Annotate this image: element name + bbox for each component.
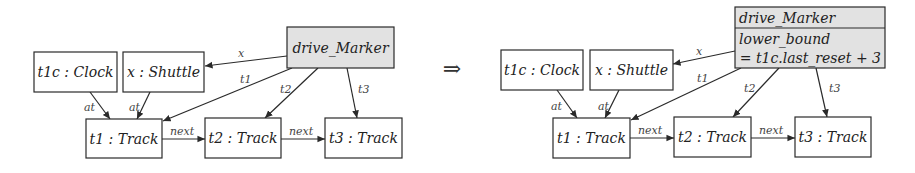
edge-arrow-icon [816, 68, 827, 117]
edge-next: next [281, 125, 325, 139]
node-label: t2 : Track [209, 130, 278, 146]
edge-at: at [84, 92, 110, 119]
node-t2: t2 : Track [205, 118, 281, 158]
edge-t3: t3 [816, 68, 840, 117]
edge-label: t2 [744, 82, 755, 95]
edge-next: next [751, 124, 795, 138]
edge-next: next [630, 124, 674, 138]
edge-label: next [638, 124, 663, 137]
node-label: t2 : Track [678, 129, 747, 145]
edge-label: t2 [280, 83, 291, 96]
node-x: x : Shuttle [590, 50, 673, 90]
edge-label: next [170, 125, 195, 138]
edge-label: at [129, 101, 141, 114]
edge-arrow-icon [673, 51, 735, 64]
edge-t3: t3 [347, 68, 369, 118]
edge-next: next [162, 125, 205, 139]
attribute-expression: = t1c.last_reset + 3 [740, 50, 881, 67]
node-t3: t3 : Track [795, 117, 871, 157]
implies-arrow-icon: ⇒ [443, 56, 461, 81]
edge-arrow-icon [733, 68, 779, 117]
graph-transformation-diagram: xt1t2t3atatnextnextt1c : Clockx : Shuttl… [0, 0, 915, 173]
edge-label: x [238, 47, 245, 60]
node-label: t1 : Track [557, 130, 626, 146]
edge-at: at [129, 92, 150, 119]
node-label: t1c : Clock [38, 64, 114, 80]
left-graph-pattern: xt1t2t3atatnextnextt1c : Clockx : Shuttl… [34, 27, 402, 158]
edge-x: x [673, 45, 735, 64]
edge-label: next [759, 124, 784, 137]
node-label: t3 : Track [329, 130, 398, 146]
node-drive-marker-with-constraint: drive_Markerlower_bound= t1c.last_reset … [735, 7, 885, 68]
edge-arrow-icon [205, 56, 287, 66]
right-graph-pattern: xt1t2t3atatnextnextt1c : Clockx : Shuttl… [501, 7, 885, 158]
edge-label: t3 [829, 82, 840, 95]
edge-label: at [598, 100, 610, 113]
edge-t2: t2 [733, 68, 779, 117]
marker-title: drive_Marker [739, 10, 836, 27]
node-t1: t1 : Track [553, 118, 630, 158]
edge-label: x [696, 45, 703, 58]
edge-label: t1 [240, 73, 251, 86]
node-t1c: t1c : Clock [34, 52, 117, 92]
edge-label: t1 [697, 72, 708, 85]
edge-x: x [205, 47, 287, 66]
node-t1: t1 : Track [86, 119, 162, 158]
node-t1c: t1c : Clock [501, 50, 583, 90]
attribute-name: lower_bound [739, 31, 830, 48]
node-label: t3 : Track [799, 129, 868, 145]
edge-label: t3 [358, 83, 369, 96]
node-dm: drive_Marker [287, 27, 394, 68]
edge-arrow-icon [347, 68, 357, 118]
node-label: x : Shuttle [127, 64, 200, 80]
edge-at: at [551, 90, 577, 118]
edge-label: at [84, 101, 96, 114]
node-label: t1 : Track [90, 131, 159, 147]
node-label: drive_Marker [292, 40, 389, 57]
node-t3: t3 : Track [325, 118, 402, 158]
node-t2: t2 : Track [674, 117, 751, 157]
node-label: t1c : Clock [504, 62, 580, 78]
node-label: x : Shuttle [595, 62, 668, 78]
edge-label: at [551, 100, 563, 113]
edge-at: at [598, 90, 619, 118]
edge-label: next [289, 125, 314, 138]
node-x: x : Shuttle [123, 52, 204, 92]
